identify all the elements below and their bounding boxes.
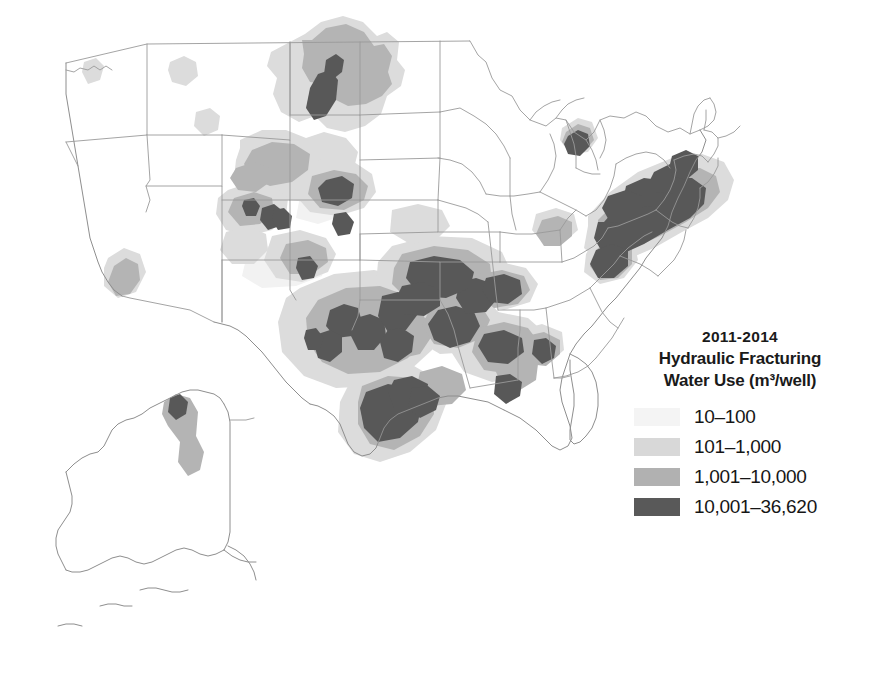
legend-label-2: 101–1,000: [694, 436, 781, 458]
legend-label-1: 10–100: [694, 406, 756, 428]
legend-title-line2: Hydraulic Fracturing: [612, 348, 868, 370]
legend-items: 10–100 101–1,000 1,001–10,000 10,001–36,…: [612, 402, 868, 522]
legend-row: 10,001–36,620: [634, 492, 868, 522]
legend-label-3: 1,001–10,000: [694, 466, 807, 488]
legend-swatch-4: [634, 498, 680, 516]
map-legend: 2011-2014 Hydraulic Fracturing Water Use…: [612, 326, 868, 522]
legend-row: 10–100: [634, 402, 868, 432]
map-figure: 2011-2014 Hydraulic Fracturing Water Use…: [0, 0, 875, 674]
legend-label-4: 10,001–36,620: [694, 496, 817, 518]
legend-swatch-1: [634, 408, 680, 426]
legend-row: 101–1,000: [634, 432, 868, 462]
legend-title: 2011-2014 Hydraulic Fracturing Water Use…: [612, 326, 868, 392]
legend-title-line3: Water Use (m³/well): [612, 370, 868, 392]
legend-title-year: 2011-2014: [612, 326, 868, 348]
legend-swatch-2: [634, 438, 680, 456]
legend-swatch-3: [634, 468, 680, 486]
legend-row: 1,001–10,000: [634, 462, 868, 492]
